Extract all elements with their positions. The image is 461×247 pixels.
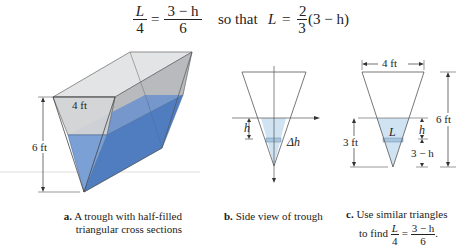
caption-letter: c. xyxy=(346,208,354,220)
caption-equals: = xyxy=(402,227,408,239)
caption-line1: Use similar triangles xyxy=(356,208,447,220)
top-width-label-4ft: 4 ft xyxy=(382,57,397,70)
caption-letter: b. xyxy=(224,210,233,222)
caption-frac-rhs: 3 − h 6 xyxy=(411,222,436,247)
caption-a: a. A trough with half-filled triangular … xyxy=(58,210,182,236)
water-depth-label-3ft: 3 ft xyxy=(343,136,358,149)
frac-num: 3 − h xyxy=(411,222,436,235)
horizontal-axis-arrow-icon xyxy=(314,116,320,120)
delta-h-label: Δh xyxy=(287,136,300,149)
caption-text: Side view of trough xyxy=(236,210,323,222)
frac-den: 6 xyxy=(411,235,436,247)
height-label-6ft: 6 ft xyxy=(32,141,47,154)
caption-line2: triangular cross sections xyxy=(58,223,182,236)
L-label: L xyxy=(389,126,396,139)
caption-period: . xyxy=(435,227,438,239)
frac-num: L xyxy=(391,222,399,235)
caption-b: b. Side view of trough xyxy=(224,210,323,223)
caption-line2-row: to find L 4 = 3 − h 6 . xyxy=(346,222,461,247)
remainder-label-3-minus-h: 3 − h xyxy=(411,147,434,160)
vertical-axis-arrow-icon xyxy=(272,178,276,183)
caption-line2: to find xyxy=(359,227,388,239)
caption-line1: A trough with half-filled xyxy=(74,210,182,222)
caption-frac-lhs: L 4 xyxy=(391,222,399,247)
caption-c: c. Use similar triangles to find L 4 = 3… xyxy=(346,208,461,247)
width-label-4ft: 4 ft xyxy=(72,99,87,112)
caption-letter: a. xyxy=(64,210,72,222)
total-height-label-6ft: 6 ft xyxy=(436,113,451,126)
delta-h-strip xyxy=(266,138,281,142)
h-label: h xyxy=(244,122,250,135)
frac-den: 4 xyxy=(391,235,399,247)
h-label: h xyxy=(419,124,425,137)
